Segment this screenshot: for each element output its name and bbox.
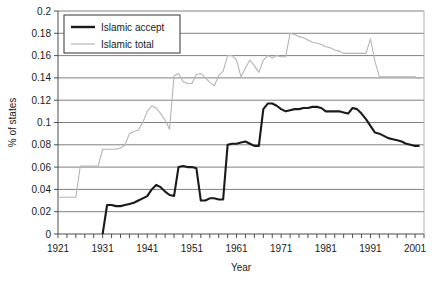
x-tick-label: 1931	[92, 243, 115, 254]
y-axis: 0.20.180.160.140.120.10.080.060.040.020	[32, 6, 58, 240]
y-tick-label: 0.06	[32, 162, 52, 173]
x-axis: 192119311941195119611971198119912001	[47, 234, 427, 254]
y-tick-label: 0.14	[32, 72, 52, 83]
y-tick-label: 0.18	[32, 28, 52, 39]
legend-label-0: Islamic accept	[101, 22, 165, 33]
x-tick-label: 1971	[270, 243, 293, 254]
x-tick-label: 1941	[136, 243, 159, 254]
x-tick-label: 1981	[315, 243, 338, 254]
y-axis-title: % of states	[7, 98, 18, 147]
legend: Islamic acceptIslamic total	[64, 15, 180, 53]
x-tick-label: 1921	[47, 243, 70, 254]
chart-container: 0.20.180.160.140.120.10.080.060.040.0201…	[0, 0, 439, 291]
x-tick-label: 2001	[404, 243, 427, 254]
x-tick-label: 1991	[359, 243, 382, 254]
y-tick-label: 0.1	[37, 117, 51, 128]
x-axis-title: Year	[231, 262, 252, 273]
x-tick-label: 1961	[225, 243, 248, 254]
y-tick-label: 0.04	[32, 184, 52, 195]
y-tick-label: 0.12	[32, 95, 52, 106]
y-tick-label: 0.08	[32, 139, 52, 150]
legend-label-1: Islamic total	[101, 39, 154, 50]
y-tick-label: 0.02	[32, 206, 52, 217]
line-chart: 0.20.180.160.140.120.10.080.060.040.0201…	[0, 0, 439, 291]
y-tick-label: 0	[45, 229, 51, 240]
x-tick-label: 1951	[181, 243, 204, 254]
y-tick-label: 0.16	[32, 50, 52, 61]
y-tick-label: 0.2	[37, 6, 51, 17]
